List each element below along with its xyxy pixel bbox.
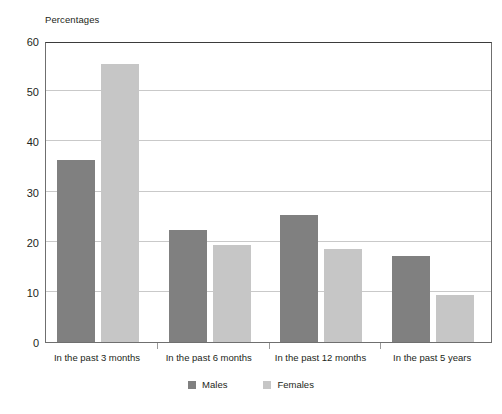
bar-males — [169, 230, 207, 342]
bar-group — [381, 43, 493, 342]
y-axis-tick-labels: 6050403020100 — [0, 42, 39, 343]
footnote-text — [38, 408, 468, 414]
x-axis-category-label: In the past 12 months — [275, 352, 366, 363]
legend-label: Males — [202, 379, 227, 390]
y-axis-tick-label: 60 — [5, 36, 39, 48]
legend-label: Females — [277, 379, 313, 390]
bar-group — [158, 43, 270, 342]
bar-females — [324, 249, 362, 342]
x-axis-tick — [269, 343, 270, 349]
plot-area — [45, 42, 492, 343]
bar-females — [436, 295, 474, 342]
bars-layer — [46, 43, 491, 342]
x-axis-category-labels: In the past 3 monthsIn the past 6 months… — [45, 352, 492, 368]
y-axis-tick-label: 10 — [5, 287, 39, 299]
y-axis-tick-label: 30 — [5, 187, 39, 199]
x-axis-category-label: In the past 5 years — [393, 352, 471, 363]
x-axis-category-label: In the past 3 months — [54, 352, 140, 363]
x-axis-tick — [380, 343, 381, 349]
y-axis-tick-label: 20 — [5, 237, 39, 249]
x-axis-tick — [157, 343, 158, 349]
bar-females — [213, 245, 251, 342]
bar-group — [270, 43, 382, 342]
y-axis-tick-label: 50 — [5, 86, 39, 98]
bar-chart-figure: Percentages 6050403020100 In the past 3 … — [0, 0, 502, 414]
y-axis-title: Percentages — [45, 14, 99, 25]
legend-item-females[interactable]: Females — [263, 379, 313, 390]
bar-males — [57, 160, 95, 342]
bar-males — [280, 215, 318, 342]
bar-females — [101, 64, 139, 342]
y-axis-tick-label: 0 — [5, 337, 39, 349]
legend-swatch-icon — [188, 381, 196, 389]
chart-legend: MalesFemales — [0, 379, 502, 390]
bar-group — [46, 43, 158, 342]
legend-swatch-icon — [263, 381, 271, 389]
x-axis-category-label: In the past 6 months — [166, 352, 252, 363]
bar-males — [392, 256, 430, 342]
y-axis-tick-label: 40 — [5, 136, 39, 148]
legend-item-males[interactable]: Males — [188, 379, 227, 390]
